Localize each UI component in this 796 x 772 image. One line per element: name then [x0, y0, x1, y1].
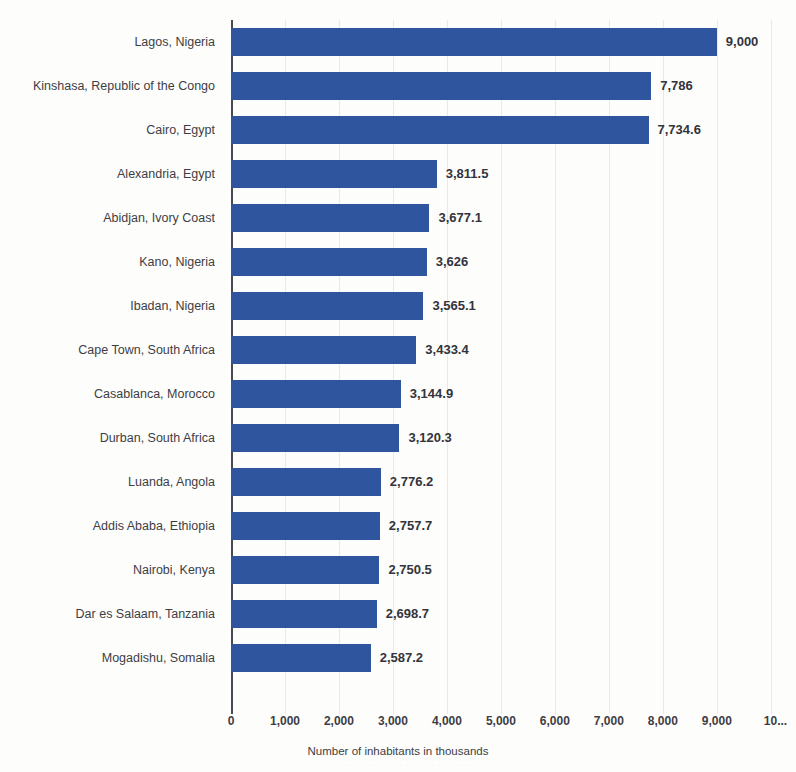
x-tick-label: 9,000: [702, 714, 732, 728]
value-axis: 01,0002,0003,0004,0005,0006,0007,0008,00…: [231, 714, 796, 738]
category-label: Lagos, Nigeria: [0, 20, 215, 64]
category-label: Kinshasa, Republic of the Congo: [0, 64, 215, 108]
bar-value-label: 2,698.7: [377, 600, 429, 628]
bar-row: 9,000: [231, 20, 787, 64]
category-label: Nairobi, Kenya: [0, 548, 215, 592]
bar-row: 2,698.7: [231, 592, 787, 636]
bar[interactable]: [231, 204, 429, 232]
category-label: Addis Ababa, Ethiopia: [0, 504, 215, 548]
bar-value-label: 3,677.1: [429, 204, 481, 232]
bar-row: 7,734.6: [231, 108, 787, 152]
bar-row: 3,626: [231, 240, 787, 284]
category-label: Luanda, Angola: [0, 460, 215, 504]
bar-value-label: 3,120.3: [399, 424, 451, 452]
x-axis-title: Number of inhabitants in thousands: [0, 745, 796, 757]
bar-chart: Lagos, NigeriaKinshasa, Republic of the …: [0, 0, 796, 772]
x-tick-label: 8,000: [648, 714, 678, 728]
category-label: Casablanca, Morocco: [0, 372, 215, 416]
bar[interactable]: [231, 468, 381, 496]
bar[interactable]: [231, 424, 399, 452]
bar-row: 2,750.5: [231, 548, 787, 592]
bar[interactable]: [231, 28, 717, 56]
bar-row: 2,587.2: [231, 636, 787, 680]
x-tick-label: 10...: [764, 714, 787, 728]
x-tick-label: 5,000: [486, 714, 516, 728]
x-tick-label: 7,000: [594, 714, 624, 728]
category-axis: Lagos, NigeriaKinshasa, Republic of the …: [0, 20, 215, 680]
bar[interactable]: [231, 556, 379, 584]
bar-series: 9,0007,7867,734.63,811.53,677.13,6263,56…: [231, 20, 787, 680]
x-tick-label: 6,000: [540, 714, 570, 728]
x-tick-label: 1,000: [270, 714, 300, 728]
bar-value-label: 2,757.7: [380, 512, 432, 540]
bar-value-label: 2,750.5: [379, 556, 431, 584]
bar-value-label: 7,734.6: [649, 116, 701, 144]
bar-value-label: 3,144.9: [401, 380, 453, 408]
category-label: Durban, South Africa: [0, 416, 215, 460]
bar[interactable]: [231, 292, 423, 320]
category-label: Cape Town, South Africa: [0, 328, 215, 372]
category-label: Kano, Nigeria: [0, 240, 215, 284]
bar-value-label: 7,786: [651, 72, 693, 100]
plot-area: 9,0007,7867,734.63,811.53,677.13,6263,56…: [231, 20, 787, 714]
bar-value-label: 3,626: [427, 248, 469, 276]
category-label: Cairo, Egypt: [0, 108, 215, 152]
bar[interactable]: [231, 512, 380, 540]
bar-value-label: 3,811.5: [437, 160, 489, 188]
bar-value-label: 3,565.1: [423, 292, 475, 320]
bar-row: 3,565.1: [231, 284, 787, 328]
bar-row: 3,811.5: [231, 152, 787, 196]
bar-row: 3,677.1: [231, 196, 787, 240]
bar[interactable]: [231, 644, 371, 672]
x-tick-label: 3,000: [378, 714, 408, 728]
category-label: Dar es Salaam, Tanzania: [0, 592, 215, 636]
bar[interactable]: [231, 380, 401, 408]
category-label: Alexandria, Egypt: [0, 152, 215, 196]
bar-value-label: 3,433.4: [416, 336, 468, 364]
category-label: Abidjan, Ivory Coast: [0, 196, 215, 240]
bar-row: 3,144.9: [231, 372, 787, 416]
bar[interactable]: [231, 160, 437, 188]
category-label: Mogadishu, Somalia: [0, 636, 215, 680]
bar-row: 2,776.2: [231, 460, 787, 504]
x-tick-label: 4,000: [432, 714, 462, 728]
bar-value-label: 2,587.2: [371, 644, 423, 672]
footer-caption: · · · · · · · · · · · · · · · · · · · · …: [0, 760, 796, 770]
bar-value-label: 9,000: [717, 28, 759, 56]
bar-row: 2,757.7: [231, 504, 787, 548]
bar[interactable]: [231, 116, 649, 144]
x-tick-label: 0: [228, 714, 235, 728]
bar-row: 3,120.3: [231, 416, 787, 460]
bar-row: 7,786: [231, 64, 787, 108]
x-tick-label: 2,000: [324, 714, 354, 728]
bar-row: 3,433.4: [231, 328, 787, 372]
bar[interactable]: [231, 600, 377, 628]
bar[interactable]: [231, 248, 427, 276]
bar[interactable]: [231, 72, 651, 100]
bar[interactable]: [231, 336, 416, 364]
category-label: Ibadan, Nigeria: [0, 284, 215, 328]
bar-value-label: 2,776.2: [381, 468, 433, 496]
